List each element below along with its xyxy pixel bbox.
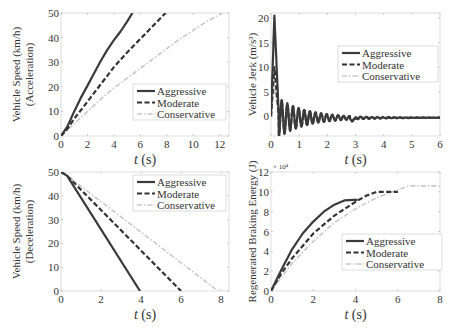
legend: AggressiveModerateConservative bbox=[133, 84, 226, 120]
x-tick-label: 3 bbox=[353, 138, 359, 150]
x-tick-label: 4 bbox=[353, 293, 359, 305]
y-exponent-label: × 10⁴ bbox=[273, 163, 289, 171]
x-tick-label: 0 bbox=[268, 138, 274, 150]
legend: AggressiveModerateConservative bbox=[342, 234, 442, 270]
y-tick-label: 4 bbox=[264, 245, 270, 257]
legend: AggressiveModerateConservative bbox=[338, 46, 438, 82]
legend-label-aggressive: Aggressive bbox=[366, 235, 416, 247]
legend-label-moderate: Moderate bbox=[157, 188, 199, 200]
y-tick-label: 5 bbox=[264, 86, 270, 98]
figure: 02468101201020304050t (s)Vehicle Speed (… bbox=[0, 0, 454, 332]
y-axis-label: Vehicle Jerk (m/s³) bbox=[246, 33, 259, 117]
y-tick-label: 50 bbox=[48, 7, 60, 19]
x-tick-label: 2 bbox=[311, 293, 317, 305]
x-tick-label: 12 bbox=[214, 138, 225, 150]
subplot-vehicle-jerk: 012345605101520t (s)Vehicle Jerk (m/s³)A… bbox=[246, 12, 443, 168]
y-tick-label: 0 bbox=[264, 110, 270, 122]
y-tick-label: 6 bbox=[264, 226, 270, 238]
x-axis-label: t (s) bbox=[344, 307, 367, 323]
legend-label-moderate: Moderate bbox=[366, 247, 408, 259]
y-tick-label: 50 bbox=[48, 166, 60, 178]
x-axis-label: t (s) bbox=[134, 307, 157, 323]
y-axis-label: Regenerated Braking Energy (J) bbox=[246, 160, 259, 302]
y-tick-label: 15 bbox=[258, 37, 270, 49]
x-tick-label: 4 bbox=[381, 138, 387, 150]
axes-frame bbox=[271, 172, 440, 291]
x-tick-label: 2 bbox=[98, 293, 104, 305]
legend-label-conservative: Conservative bbox=[362, 70, 420, 82]
x-tick-label: 2 bbox=[85, 138, 91, 150]
y-tick-label: 30 bbox=[48, 214, 60, 226]
legend-label-conservative: Conservative bbox=[157, 108, 215, 120]
x-tick-label: 6 bbox=[395, 293, 401, 305]
x-tick-label: 6 bbox=[178, 293, 184, 305]
x-axis-label: t (s) bbox=[344, 152, 367, 168]
y-tick-label: 10 bbox=[48, 105, 60, 117]
y-tick-label: 20 bbox=[258, 12, 270, 24]
legend-label-aggressive: Aggressive bbox=[362, 47, 412, 59]
x-tick-label: 4 bbox=[111, 138, 117, 150]
y-axis-label: (Deceleration) bbox=[23, 199, 36, 263]
x-tick-label: 1 bbox=[296, 138, 302, 150]
y-tick-label: 10 bbox=[258, 186, 270, 198]
x-axis-label: t (s) bbox=[134, 152, 157, 168]
x-tick-label: 8 bbox=[437, 293, 443, 305]
x-tick-label: 2 bbox=[325, 138, 331, 150]
y-axis-label: Vehicle Speed (km/h) bbox=[10, 27, 23, 123]
x-tick-label: 0 bbox=[58, 138, 64, 150]
x-tick-label: 4 bbox=[138, 293, 144, 305]
y-tick-label: 0 bbox=[54, 130, 60, 142]
legend-label-conservative: Conservative bbox=[366, 258, 424, 270]
y-tick-label: 40 bbox=[48, 190, 60, 202]
subplot-deceleration-speed: 0246801020304050t (s)Vehicle Speed (km/h… bbox=[10, 166, 229, 323]
y-tick-label: 0 bbox=[264, 285, 270, 297]
legend-label-moderate: Moderate bbox=[157, 97, 199, 109]
legend-label-aggressive: Aggressive bbox=[157, 85, 207, 97]
x-tick-label: 5 bbox=[409, 138, 415, 150]
legend-label-moderate: Moderate bbox=[362, 59, 404, 71]
x-tick-label: 6 bbox=[138, 138, 144, 150]
legend-label-conservative: Conservative bbox=[157, 199, 215, 211]
y-tick-label: 8 bbox=[264, 206, 270, 218]
subplot-acceleration-speed: 02468101201020304050t (s)Vehicle Speed (… bbox=[10, 7, 229, 168]
x-tick-label: 8 bbox=[164, 138, 170, 150]
x-tick-label: 10 bbox=[188, 138, 200, 150]
y-axis-label: Vehicle Speed (km/h) bbox=[10, 184, 23, 280]
y-tick-label: 20 bbox=[48, 81, 60, 93]
y-tick-label: 10 bbox=[48, 261, 60, 273]
y-tick-label: 0 bbox=[54, 285, 60, 297]
x-tick-label: 0 bbox=[268, 293, 274, 305]
x-tick-label: 8 bbox=[218, 293, 224, 305]
legend-label-aggressive: Aggressive bbox=[157, 176, 207, 188]
y-tick-label: 2 bbox=[264, 265, 270, 277]
y-tick-label: 20 bbox=[48, 237, 60, 249]
y-tick-label: 10 bbox=[258, 61, 270, 73]
x-tick-label: 6 bbox=[437, 138, 443, 150]
subplot-regenerated-energy: 02468024681012× 10⁴t (s)Regenerated Brak… bbox=[246, 160, 443, 323]
legend: AggressiveModerateConservative bbox=[133, 175, 226, 211]
x-tick-label: 0 bbox=[58, 293, 64, 305]
y-tick-label: 30 bbox=[48, 56, 60, 68]
y-axis-label: (Acceleration) bbox=[23, 42, 36, 106]
y-tick-label: 12 bbox=[258, 166, 269, 178]
y-tick-label: 40 bbox=[48, 32, 60, 44]
